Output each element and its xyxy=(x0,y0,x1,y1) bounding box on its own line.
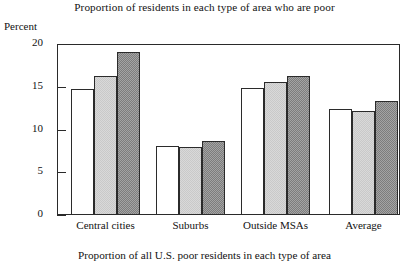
x-axis-category-label: Average xyxy=(345,219,381,231)
bar xyxy=(329,109,352,215)
bars-layer xyxy=(57,44,400,215)
bar xyxy=(202,141,225,215)
bar xyxy=(71,89,94,215)
chart-caption: Proportion of all U.S. poor residents in… xyxy=(0,249,409,261)
y-axis-label: Percent xyxy=(4,20,37,32)
chart-title: Proportion of residents in each type of … xyxy=(0,1,409,13)
bar xyxy=(94,76,117,215)
bar xyxy=(264,82,287,215)
y-axis-tick-label: 20 xyxy=(32,36,43,48)
y-axis-tick-label: 10 xyxy=(32,122,43,134)
bar xyxy=(179,147,202,215)
x-axis-category-label: Outside MSAs xyxy=(243,219,308,231)
y-axis-tick-mark xyxy=(57,215,66,216)
bar xyxy=(117,52,140,215)
bar-chart-figure: Proportion of residents in each type of … xyxy=(0,0,409,270)
y-axis-tick-label: 0 xyxy=(38,207,44,219)
bar xyxy=(352,111,375,215)
y-axis-tick-label: 5 xyxy=(38,164,44,176)
x-axis-category-label: Suburbs xyxy=(172,219,208,231)
bar xyxy=(241,88,264,215)
bar xyxy=(287,76,310,215)
y-axis-tick-label: 15 xyxy=(32,79,43,91)
x-axis-category-label: Central cities xyxy=(76,219,134,231)
bar xyxy=(375,101,398,215)
bar xyxy=(156,146,179,215)
